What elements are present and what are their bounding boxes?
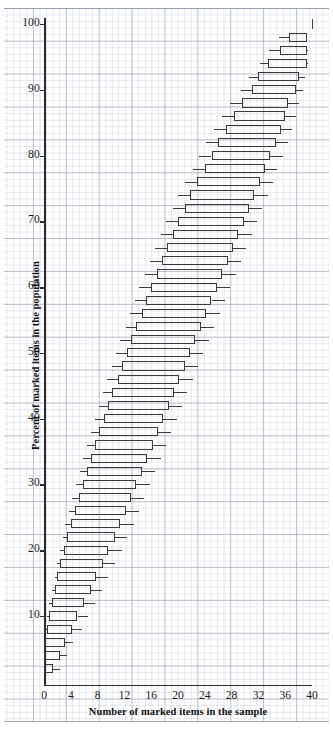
plot-area: 102030405060708090100 048121620242832364… [0, 0, 333, 736]
y-tick-mark [40, 24, 44, 25]
whisker-high [299, 77, 306, 78]
whisker-high [153, 445, 166, 446]
interval-box [146, 296, 212, 305]
interval-box [47, 625, 72, 634]
chart-page: 102030405060708090100 048121620242832364… [0, 0, 333, 736]
whisker-high [201, 327, 214, 328]
whisker-high [249, 208, 262, 209]
interval-box [122, 361, 185, 370]
whisker-high [270, 156, 282, 157]
whisker-low [126, 327, 137, 328]
y-tick-mark [40, 550, 44, 551]
interval-box [52, 598, 84, 607]
interval-box [87, 467, 142, 476]
whisker-low [135, 300, 146, 301]
whisker-high [53, 669, 60, 670]
whisker-low [87, 445, 95, 446]
whisker-high [174, 392, 187, 393]
whisker-low [95, 419, 104, 420]
interval-box [118, 375, 180, 384]
interval-box [234, 111, 285, 120]
y-tick-mark [40, 90, 44, 91]
whisker-high [254, 195, 267, 196]
whisker-high [65, 642, 73, 643]
x-tick-label: 32 [246, 689, 270, 701]
interval-box [185, 204, 249, 213]
y-tick-mark [40, 616, 44, 617]
interval-box [178, 217, 244, 226]
whisker-low [185, 182, 197, 183]
y-axis-line [44, 18, 46, 686]
interval-box [99, 427, 158, 436]
whisker-low [112, 366, 121, 367]
y-tick-mark [40, 287, 44, 288]
whisker-low [72, 498, 79, 499]
whisker-low [230, 103, 242, 104]
whisker-low [260, 63, 268, 64]
whisker-high [163, 419, 176, 420]
whisker-high [103, 563, 115, 564]
interval-box [131, 335, 195, 344]
whisker-high [288, 103, 299, 104]
interval-box [83, 480, 137, 489]
whisker-high [147, 458, 160, 459]
single-point-marker [312, 19, 313, 28]
interval-box [226, 125, 281, 134]
y-axis-label: Percent of marked items in the populatio… [30, 231, 41, 481]
interval-box [95, 440, 153, 449]
interval-box [67, 532, 115, 541]
y-tick-mark [40, 484, 44, 485]
interval-box [258, 72, 298, 81]
whisker-low [130, 313, 142, 314]
whisker-low [155, 248, 167, 249]
x-tick-label: 24 [193, 689, 217, 701]
interval-box [173, 230, 239, 239]
whisker-high [185, 366, 198, 367]
interval-box [49, 611, 77, 620]
y-tick-mark [40, 353, 44, 354]
interval-box [91, 454, 147, 463]
y-tick-label: 70 [10, 213, 40, 225]
whisker-low [222, 116, 234, 117]
interval-box [205, 164, 265, 173]
whisker-low [206, 142, 218, 143]
interval-box [44, 664, 53, 673]
interval-box [252, 85, 296, 94]
whisker-high [233, 248, 246, 249]
interval-box [75, 506, 126, 515]
whisker-high [296, 90, 303, 91]
whisker-high [115, 537, 127, 538]
whisker-high [281, 129, 292, 130]
whisker-low [241, 90, 252, 91]
y-tick-label: 10 [10, 608, 40, 620]
interval-box [104, 414, 163, 423]
whisker-high [307, 63, 308, 64]
interval-box [71, 519, 121, 528]
y-tick-mark [40, 221, 44, 222]
whisker-high [265, 169, 277, 170]
whisker-high [244, 221, 257, 222]
whisker-high [217, 287, 230, 288]
whisker-high [108, 550, 121, 551]
whisker-high [131, 498, 144, 499]
interval-box [162, 256, 228, 265]
whisker-high [190, 353, 203, 354]
interval-box [151, 283, 217, 292]
whisker-low [199, 156, 211, 157]
interval-box [212, 151, 271, 160]
whisker-low [116, 353, 127, 354]
whisker-high [195, 340, 208, 341]
whisker-low [99, 406, 108, 407]
x-tick-label: 12 [112, 689, 136, 701]
whisker-high [222, 274, 235, 275]
whisker-high [276, 142, 288, 143]
whisker-low [178, 195, 190, 196]
y-tick-label: 20 [10, 542, 40, 554]
x-tick-label: 20 [166, 689, 190, 701]
whisker-low [249, 77, 258, 78]
interval-box [289, 33, 306, 42]
interval-box [197, 177, 260, 186]
x-tick-label: 28 [220, 689, 244, 701]
whisker-low [76, 484, 83, 485]
whisker-low [107, 379, 118, 380]
